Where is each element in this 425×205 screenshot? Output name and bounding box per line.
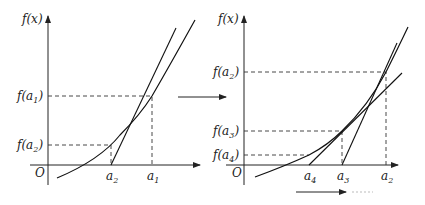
right-y-axis-label: f(x) xyxy=(217,12,239,26)
left-y-axis-label: f(x) xyxy=(21,12,43,26)
right-tangent-line-a3 xyxy=(309,73,402,165)
left-y-tick-fa2: f(a2) xyxy=(16,138,43,154)
right-origin-label: O xyxy=(232,166,242,180)
left-function-curve xyxy=(57,20,195,178)
right-y-tick-fa2: f(a2) xyxy=(212,65,239,81)
left-panel: f(x) O f(a1) f(a2) a2 a1 xyxy=(16,12,200,185)
right-function-curve xyxy=(255,27,408,177)
left-origin-label: O xyxy=(35,166,45,180)
right-panel: f(x) O f(a2) f(a3) f(a4) a4 a3 a2 xyxy=(212,12,408,185)
left-guide-a2 xyxy=(48,145,111,165)
right-x-tick-a2: a2 xyxy=(381,169,393,185)
right-tangent-line-a2 xyxy=(342,43,397,165)
newton-method-diagram: f(x) O f(a1) f(a2) a2 a1 f(x) O f(a2) f(… xyxy=(0,0,425,205)
right-y-tick-fa3: f(a3) xyxy=(212,124,239,140)
left-y-tick-fa1: f(a1) xyxy=(16,89,43,105)
right-x-tick-a4: a4 xyxy=(304,169,316,185)
left-x-tick-a1: a1 xyxy=(147,169,159,185)
diagram-canvas: f(x) O f(a1) f(a2) a2 a1 f(x) O f(a2) f(… xyxy=(0,0,425,205)
left-tangent-line xyxy=(111,28,176,165)
right-y-tick-fa4: f(a4) xyxy=(212,148,239,164)
right-guide-a3 xyxy=(244,131,342,165)
right-x-tick-a3: a3 xyxy=(337,169,349,185)
left-x-tick-a2: a2 xyxy=(106,169,118,185)
